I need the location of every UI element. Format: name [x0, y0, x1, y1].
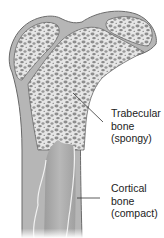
label-line: Trabecular: [111, 107, 161, 120]
label-line: bone: [111, 195, 158, 208]
label-line: bone: [111, 120, 161, 133]
label-line: (compact): [111, 207, 158, 220]
label-cortical-bone: Cortical bone (compact): [111, 182, 158, 220]
label-trabecular-bone: Trabecular bone (spongy): [111, 107, 161, 145]
label-line: Cortical: [111, 182, 158, 195]
label-line: (spongy): [111, 132, 161, 145]
